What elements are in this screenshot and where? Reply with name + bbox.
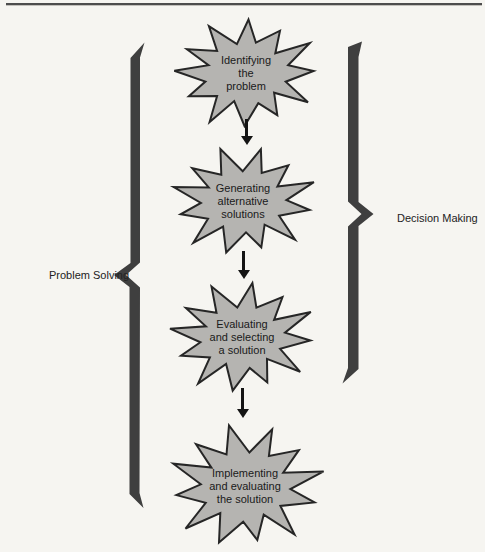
step4-line2: and evaluating [157, 480, 333, 493]
step2-line2: alternative [159, 195, 327, 208]
step3-line2: and selecting [158, 331, 326, 344]
step1-line1: Identifying [162, 54, 330, 67]
starburst-implementing-evaluating: Implementing and evaluating the solution [157, 416, 333, 552]
step4-line3: the solution [157, 493, 333, 506]
starburst-generating-alternatives: Generating alternative solutions [159, 137, 327, 265]
flow-arrow-3 [236, 388, 249, 418]
starburst-identifying-problem: Identifying the problem [162, 9, 330, 137]
starburst-text-2: Generating alternative solutions [159, 182, 327, 221]
step4-line1: Implementing [157, 467, 333, 480]
starburst-text-4: Implementing and evaluating the solution [157, 467, 333, 506]
starburst-evaluating-selecting: Evaluating and selecting a solution [158, 273, 326, 401]
label-problem-solving: Problem Solving [49, 269, 129, 282]
label-decision-making: Decision Making [397, 212, 478, 225]
arrow-stem [245, 119, 248, 136]
arrow-stem [242, 251, 245, 270]
right-brace [343, 42, 374, 384]
step2-line3: solutions [159, 208, 327, 221]
diagram-canvas: Problem Solving Decision Making Identify… [0, 0, 485, 552]
starburst-text-1: Identifying the problem [162, 54, 330, 93]
step3-line3: a solution [158, 344, 326, 357]
step1-line2: the [162, 67, 330, 80]
step2-line1: Generating [159, 182, 327, 195]
arrow-stem [241, 388, 244, 409]
starburst-text-3: Evaluating and selecting a solution [158, 318, 326, 357]
step1-line3: problem [162, 80, 330, 93]
step3-line1: Evaluating [158, 318, 326, 331]
